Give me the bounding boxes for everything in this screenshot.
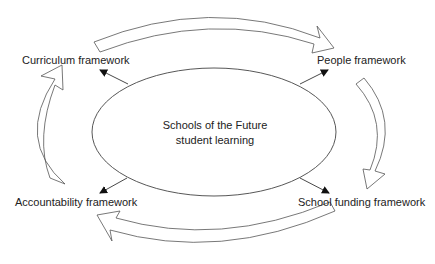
center-label-line2: student learning xyxy=(140,133,290,148)
node-school-funding-framework: School funding framework xyxy=(298,196,425,209)
node-people-framework: People framework xyxy=(317,54,406,67)
spoke-arrow-people xyxy=(300,70,328,84)
spoke-arrow-curriculum xyxy=(100,70,128,84)
center-label-line1: Schools of the Future xyxy=(140,118,290,133)
center-label: Schools of the Future student learning xyxy=(140,118,290,148)
node-accountability-framework: Accountability framework xyxy=(15,196,137,209)
spoke-arrow-accountability xyxy=(100,178,127,193)
cycle-arrow-top xyxy=(94,17,334,53)
cycle-arrow-right xyxy=(356,78,385,189)
node-curriculum-framework: Curriculum framework xyxy=(22,54,130,67)
cycle-arrow-left xyxy=(37,65,65,184)
spoke-arrow-school-funding xyxy=(300,178,329,193)
